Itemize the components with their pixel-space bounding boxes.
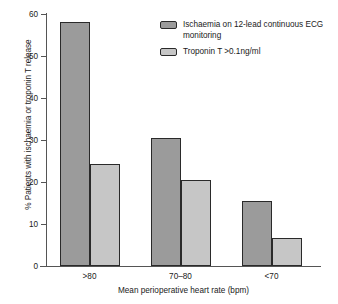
y-tick-label: 60 [12, 10, 38, 19]
y-tick-label: 50 [12, 52, 38, 61]
legend-label: Troponin T >0.1ng/ml [183, 47, 260, 58]
x-category-label: 70–80 [169, 272, 192, 281]
legend-entry-2: Troponin T >0.1ng/ml [160, 47, 338, 58]
y-tick-mark [41, 266, 47, 267]
bar-2-series-1 [151, 138, 181, 266]
y-tick-label: 40 [12, 94, 38, 103]
bar-chart: % Patients with ischaemia or troponin T … [0, 0, 338, 304]
bar-3-series-1 [242, 201, 272, 266]
bar-1-series-2 [90, 164, 120, 266]
y-tick-label: 0 [12, 262, 38, 271]
legend-label: Ischaemia on 12-lead continuous ECG moni… [183, 20, 333, 41]
x-axis-title: Mean perioperative heart rate (bpm) [47, 286, 320, 295]
legend-swatch-icon [160, 48, 177, 56]
chart-legend: Ischaemia on 12-lead continuous ECG moni… [160, 20, 338, 64]
legend-entry-1: Ischaemia on 12-lead continuous ECG moni… [160, 20, 338, 41]
bar-1-series-1 [60, 22, 90, 266]
y-tick-label: 10 [12, 220, 38, 229]
bar-2-series-2 [181, 180, 211, 266]
y-tick-label: 20 [12, 178, 38, 187]
bar-3-series-2 [272, 238, 302, 266]
legend-swatch-icon [160, 21, 177, 29]
x-axis-line [40, 266, 321, 267]
x-category-label: <70 [265, 272, 279, 281]
x-category-label: >80 [83, 272, 97, 281]
y-tick-label: 30 [12, 136, 38, 145]
